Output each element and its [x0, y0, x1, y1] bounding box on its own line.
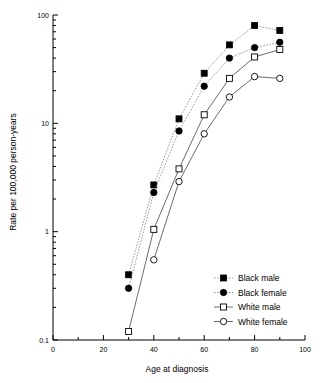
x-tick-label: 80	[251, 346, 259, 353]
data-point	[277, 75, 283, 81]
rate-by-age-log-line-chart: 020406080100 0.1110100 Black maleBlack f…	[0, 0, 321, 383]
chart-container: 020406080100 0.1110100 Black maleBlack f…	[0, 0, 321, 383]
y-tick-label: 1	[45, 228, 49, 235]
data-point	[252, 54, 258, 60]
data-point	[277, 39, 283, 45]
legend-label: Black female	[238, 288, 287, 298]
x-tick-label: 0	[51, 346, 55, 353]
data-point	[277, 27, 283, 33]
data-point	[176, 178, 182, 184]
y-axis-title: Rate per 100,000 person-years	[8, 113, 18, 231]
legend-label: Black male	[238, 273, 280, 283]
legend-marker	[221, 275, 227, 281]
data-point	[126, 328, 132, 334]
data-point	[151, 257, 157, 263]
legend-label: White male	[238, 302, 281, 312]
data-point	[176, 128, 182, 134]
data-point	[151, 182, 157, 188]
data-point	[251, 44, 257, 50]
data-point	[151, 226, 157, 232]
legend-marker	[220, 289, 226, 295]
x-tick-label: 40	[150, 346, 158, 353]
data-point	[125, 285, 131, 291]
x-tick-label: 20	[100, 346, 108, 353]
y-tick-label: 0.1	[39, 337, 49, 344]
data-point	[226, 42, 232, 48]
x-tick-label: 100	[299, 346, 311, 353]
data-point	[226, 55, 232, 61]
legend-label: White female	[238, 317, 288, 327]
data-point	[151, 189, 157, 195]
y-tick-label: 100	[37, 12, 49, 19]
x-tick-label: 60	[200, 346, 208, 353]
data-point	[226, 94, 232, 100]
data-point	[252, 22, 258, 28]
data-point	[176, 116, 182, 122]
data-point	[201, 131, 207, 137]
data-point	[126, 272, 132, 278]
data-point	[201, 112, 207, 118]
data-point	[226, 75, 232, 81]
x-axis-title: Age at diagnosis	[146, 364, 209, 374]
legend-marker	[220, 318, 226, 324]
data-point	[176, 166, 182, 172]
data-point	[277, 47, 283, 53]
data-point	[201, 83, 207, 89]
legend-marker	[221, 304, 227, 310]
data-point	[251, 73, 257, 79]
y-tick-label: 10	[41, 120, 49, 127]
data-point	[201, 70, 207, 76]
